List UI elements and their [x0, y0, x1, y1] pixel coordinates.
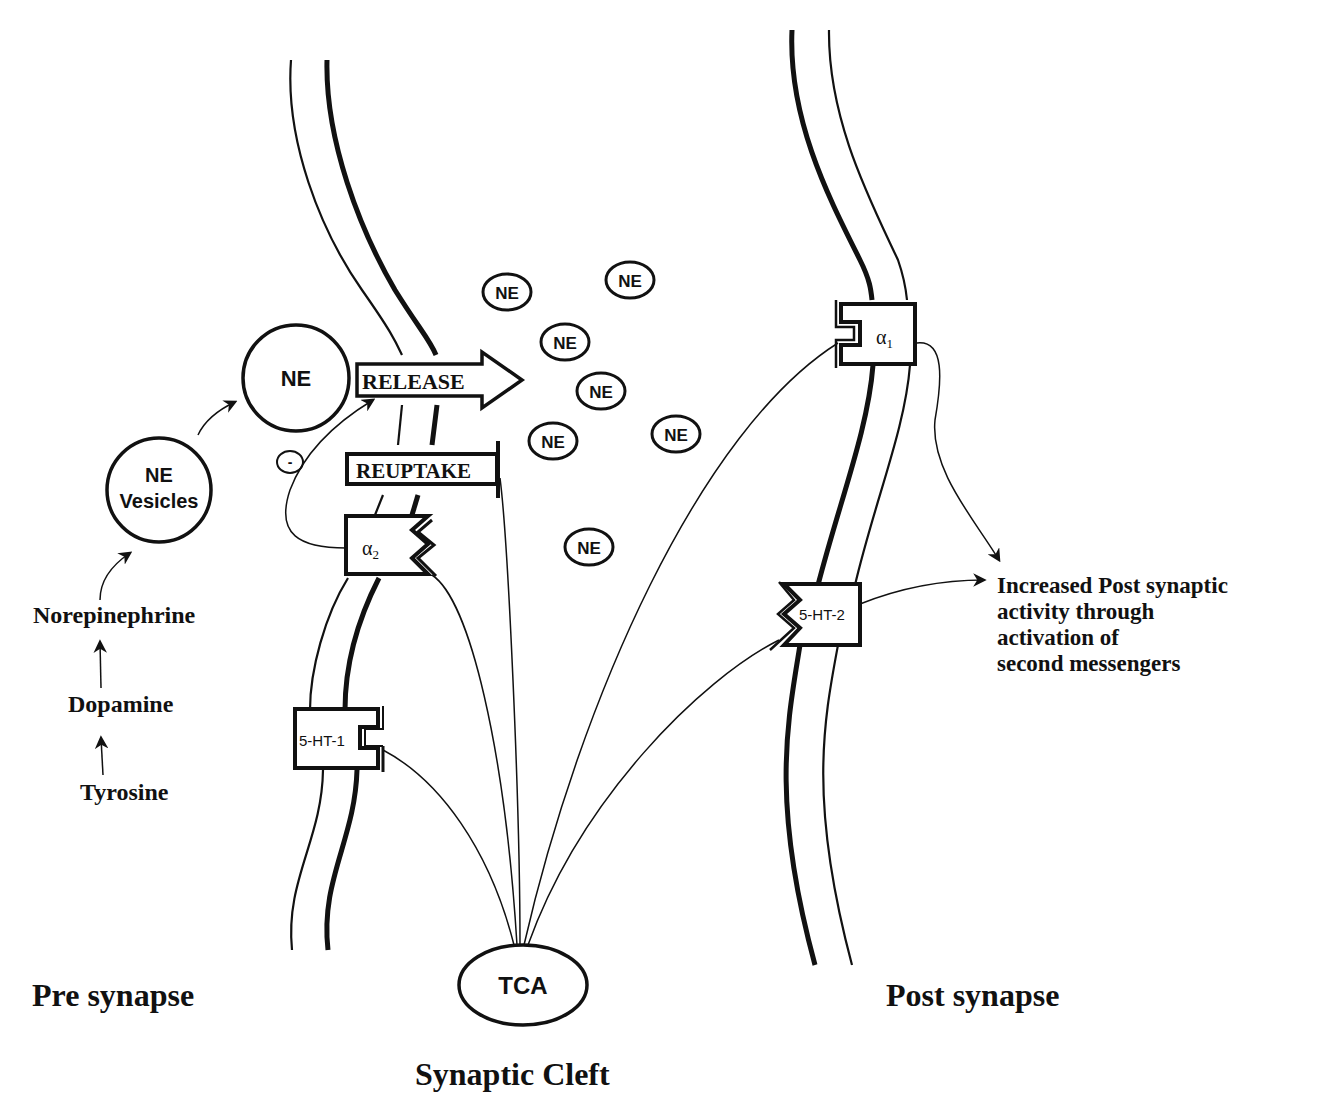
- postsynaptic-membrane: [786, 30, 910, 965]
- cleft-ne-molecules: NE NE NE NE NE NE NE: [483, 262, 700, 565]
- ne-molecule: NE: [541, 324, 589, 360]
- synaptic-cleft-label: Synaptic Cleft: [415, 1056, 610, 1092]
- svg-text:NE: NE: [589, 383, 613, 402]
- tca-node: TCA: [459, 945, 587, 1025]
- ne-molecule: NE: [652, 416, 700, 452]
- ne-molecule: NE: [565, 529, 613, 565]
- svg-text:activation of: activation of: [997, 625, 1119, 650]
- svg-text:REUPTAKE: REUPTAKE: [356, 459, 471, 483]
- svg-text:NE: NE: [577, 539, 601, 558]
- outcome-text: Increased Post synaptic activity through…: [997, 573, 1228, 676]
- synapse-diagram: Tyrosine Dopamine Norepinephrine NE Vesi…: [0, 0, 1323, 1118]
- svg-text:NE: NE: [541, 433, 565, 452]
- svg-text:Vesicles: Vesicles: [120, 490, 199, 512]
- tyrosine-label: Tyrosine: [80, 779, 169, 805]
- svg-text:RELEASE: RELEASE: [362, 369, 465, 394]
- post-synapse-label: Post synapse: [886, 977, 1059, 1013]
- ne-pool-node: NE: [243, 325, 349, 431]
- 5ht1-receptor: 5-HT-1: [295, 706, 383, 772]
- alpha1-receptor: α1: [836, 300, 915, 368]
- svg-text:NE: NE: [281, 366, 312, 391]
- presynaptic-membrane: [290, 60, 437, 950]
- ne-molecule: NE: [606, 262, 654, 298]
- 5ht2-receptor: 5-HT-2: [770, 582, 860, 650]
- svg-text:second messengers: second messengers: [997, 651, 1180, 676]
- tca-connections: [383, 343, 838, 945]
- ne-vesicles-node: NE Vesicles: [107, 438, 211, 542]
- release-arrow: RELEASE: [357, 352, 522, 408]
- alpha2-receptor: α2: [346, 516, 436, 576]
- svg-text:5-HT-2: 5-HT-2: [799, 606, 845, 623]
- svg-text:NE: NE: [145, 464, 173, 486]
- ne-molecule: NE: [529, 423, 577, 459]
- reuptake-bar: REUPTAKE: [347, 441, 498, 498]
- svg-text:NE: NE: [664, 426, 688, 445]
- svg-text:Increased Post synaptic: Increased Post synaptic: [997, 573, 1228, 598]
- svg-text:NE: NE: [495, 284, 519, 303]
- svg-text:activity through: activity through: [997, 599, 1155, 624]
- svg-text:NE: NE: [553, 334, 577, 353]
- svg-text:-: -: [288, 454, 293, 470]
- svg-text:NE: NE: [618, 272, 642, 291]
- ne-molecule: NE: [577, 373, 625, 409]
- dopamine-label: Dopamine: [68, 691, 174, 717]
- ne-molecule: NE: [483, 274, 531, 310]
- norepinephrine-label: Norepinephrine: [33, 602, 196, 628]
- svg-text:TCA: TCA: [498, 972, 547, 999]
- pre-synapse-label: Pre synapse: [32, 977, 194, 1013]
- svg-text:5-HT-1: 5-HT-1: [299, 732, 345, 749]
